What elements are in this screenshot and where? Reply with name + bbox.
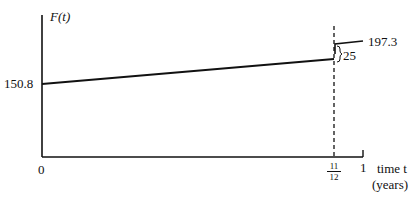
x-axis-label-line2: (years): [372, 177, 408, 193]
tick-11-12-label: 11 12: [327, 161, 341, 182]
brace-icon: [337, 46, 342, 62]
origin-label: 0: [38, 162, 45, 178]
x-axis-label-line1: time t: [377, 161, 407, 177]
y-axis-label: F(t): [50, 9, 70, 25]
start-value-label: 150.8: [4, 76, 33, 92]
chart-figure: F(t) 150.8 197.3 25 0 11 12 1 time t (ye…: [0, 0, 413, 197]
tick-1-label: 1: [360, 160, 367, 176]
jump-label: 25: [343, 48, 356, 64]
segment-1: [42, 59, 334, 84]
chart-canvas: [0, 0, 413, 197]
end-value-label: 197.3: [368, 34, 397, 50]
